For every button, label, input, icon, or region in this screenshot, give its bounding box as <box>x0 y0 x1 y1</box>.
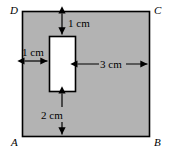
corner-label-b: B <box>154 136 161 148</box>
dim-label-left-gap: 1 cm <box>22 46 44 58</box>
dim-label-right-gap: 3 cm <box>100 58 122 70</box>
corner-label-c: C <box>154 4 162 16</box>
corner-label-d: D <box>9 4 18 16</box>
dim-label-top-gap: 1 cm <box>68 17 90 29</box>
corner-label-a: A <box>10 136 18 148</box>
dim-label-bottom-gap: 2 cm <box>41 109 63 121</box>
white-rectangle-hole <box>50 37 76 92</box>
geometry-figure: D C A B 1 cm 1 cm 3 cm 2 cm <box>0 0 170 151</box>
figure-canvas: D C A B 1 cm 1 cm 3 cm 2 cm <box>0 0 170 151</box>
